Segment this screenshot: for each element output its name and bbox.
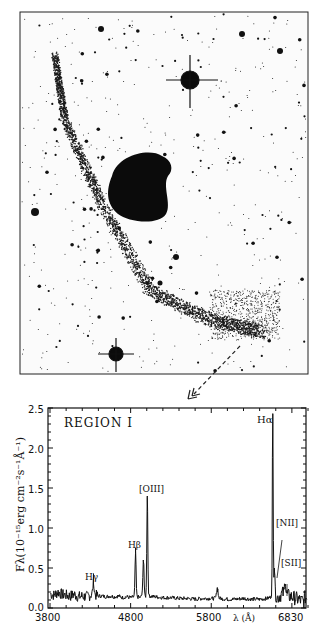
- region-label: REGION I: [64, 416, 133, 430]
- x-tick-3800: 3800: [35, 613, 60, 623]
- hgamma-label: Hγ: [85, 572, 98, 582]
- y-axis-label: Fλ(10⁻¹⁵erg cm⁻²s⁻¹Å⁻¹): [14, 415, 27, 595]
- halpha-label: Hα: [257, 415, 272, 425]
- x-tick-4800: 4800: [118, 613, 143, 623]
- spectrum-plot: [0, 0, 321, 634]
- y-tick-2-0: 2.0: [28, 445, 44, 455]
- x-axis-label: λ (Å): [233, 613, 255, 623]
- sii-label: [SII]: [281, 558, 301, 568]
- x-tick-6830: 6830: [278, 613, 303, 623]
- y-tick-1-5: 1.5: [28, 485, 44, 495]
- nii-label: [NII]: [276, 518, 298, 528]
- y-tick-0-5: 0.5: [28, 565, 44, 575]
- hbeta-label: Hβ: [128, 540, 141, 550]
- y-tick-1-0: 1.0: [28, 525, 44, 535]
- y-tick-2-5: 2.5: [28, 405, 44, 415]
- x-tick-5800: 5800: [196, 613, 221, 623]
- oiii-label: [OIII]: [139, 484, 164, 494]
